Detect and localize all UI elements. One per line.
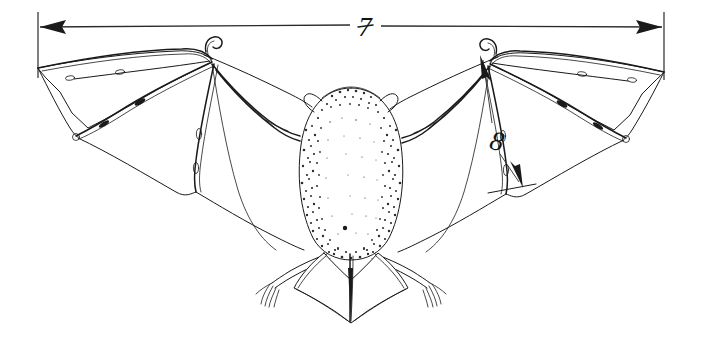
bat-body [299,87,403,260]
body-outline [299,88,403,260]
bat-illustration: 7 [0,0,703,343]
bat-figure: 7 [0,0,703,343]
body-navel-mark [343,226,347,230]
